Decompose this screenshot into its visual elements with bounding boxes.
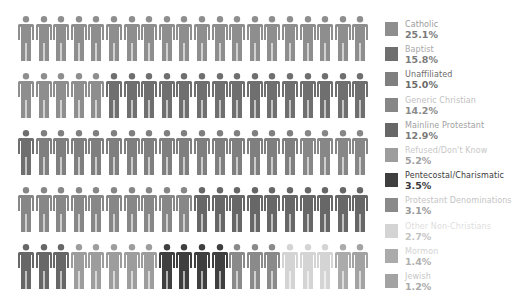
person-icon: [141, 187, 157, 233]
person-icon: [335, 187, 351, 233]
person-icon: [194, 73, 210, 119]
person-icon: [88, 187, 104, 233]
legend-value: 1.2%: [405, 281, 431, 292]
legend-swatch: [385, 198, 398, 212]
person-icon: [71, 73, 87, 119]
legend-swatch: [385, 173, 398, 187]
person-icon: [352, 244, 368, 290]
person-icon: [106, 73, 122, 119]
person-icon: [194, 187, 210, 233]
person-icon: [18, 73, 34, 119]
person-icon: [247, 130, 263, 176]
person-icon: [159, 187, 175, 233]
legend-item: Other Non-Christians2.7%: [385, 222, 515, 246]
person-icon: [141, 130, 157, 176]
legend-item: Jewish1.2%: [385, 272, 515, 296]
person-icon: [264, 130, 280, 176]
person-icon: [106, 244, 122, 290]
person-icon: [300, 130, 316, 176]
legend-swatch: [385, 47, 398, 61]
person-icon: [282, 130, 298, 176]
person-icon: [18, 187, 34, 233]
legend-swatch: [385, 123, 398, 137]
person-icon: [141, 16, 157, 62]
person-icon: [18, 130, 34, 176]
person-icon: [71, 244, 87, 290]
person-icon: [264, 244, 280, 290]
legend-value: 15.8%: [405, 54, 438, 65]
person-icon: [106, 130, 122, 176]
person-icon: [247, 187, 263, 233]
pictogram-row: [18, 16, 368, 62]
person-icon: [300, 187, 316, 233]
person-icon: [176, 244, 192, 290]
person-icon: [176, 16, 192, 62]
person-icon: [282, 244, 298, 290]
person-icon: [36, 244, 52, 290]
person-icon: [124, 73, 140, 119]
person-icon: [124, 244, 140, 290]
person-icon: [317, 130, 333, 176]
person-icon: [159, 73, 175, 119]
person-icon: [317, 16, 333, 62]
legend-value: 12.9%: [405, 130, 438, 141]
person-icon: [335, 130, 351, 176]
legend-value: 25.1%: [405, 29, 438, 40]
legend-value: 3.1%: [405, 205, 431, 216]
legend-swatch: [385, 22, 398, 36]
legend-item: Mainline Protestant12.9%: [385, 121, 515, 145]
person-icon: [282, 187, 298, 233]
person-icon: [106, 187, 122, 233]
person-icon: [194, 244, 210, 290]
legend-item: Catholic25.1%: [385, 20, 515, 44]
person-icon: [36, 73, 52, 119]
person-icon: [36, 130, 52, 176]
person-icon: [264, 187, 280, 233]
person-icon: [300, 73, 316, 119]
person-icon: [194, 130, 210, 176]
person-icon: [335, 73, 351, 119]
legend-swatch: [385, 98, 398, 112]
person-icon: [106, 16, 122, 62]
person-icon: [212, 130, 228, 176]
person-icon: [36, 16, 52, 62]
legend-item: Protestant Denominations3.1%: [385, 196, 515, 220]
person-icon: [335, 244, 351, 290]
person-icon: [264, 73, 280, 119]
legend-item: Refused/Don't Know5.2%: [385, 146, 515, 170]
person-icon: [88, 73, 104, 119]
person-icon: [229, 244, 245, 290]
person-icon: [124, 16, 140, 62]
person-icon: [124, 130, 140, 176]
person-icon: [88, 130, 104, 176]
pictogram-row: [18, 130, 368, 176]
legend-swatch: [385, 148, 398, 162]
person-icon: [124, 187, 140, 233]
person-icon: [212, 244, 228, 290]
person-icon: [229, 16, 245, 62]
person-icon: [352, 16, 368, 62]
person-icon: [317, 187, 333, 233]
person-icon: [53, 187, 69, 233]
person-icon: [53, 130, 69, 176]
person-icon: [247, 73, 263, 119]
person-icon: [282, 73, 298, 119]
person-icon: [88, 244, 104, 290]
legend-item: Unaffiliated15.0%: [385, 70, 515, 94]
legend-item: Mormon1.4%: [385, 247, 515, 271]
pictogram-row: [18, 73, 368, 119]
legend-item: Generic Christian14.2%: [385, 96, 515, 120]
person-icon: [176, 130, 192, 176]
person-icon: [18, 244, 34, 290]
legend-swatch: [385, 224, 398, 238]
person-icon: [317, 244, 333, 290]
person-icon: [141, 244, 157, 290]
person-icon: [36, 187, 52, 233]
person-icon: [71, 187, 87, 233]
person-icon: [300, 244, 316, 290]
person-icon: [159, 16, 175, 62]
person-icon: [176, 73, 192, 119]
person-icon: [229, 187, 245, 233]
legend-item: Pentecostal/Charismatic3.5%: [385, 171, 515, 195]
legend-swatch: [385, 72, 398, 86]
